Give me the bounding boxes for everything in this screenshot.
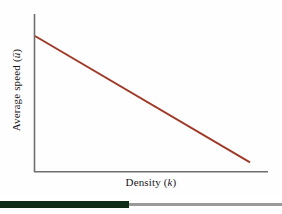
y-axis-label-container: Average speed (ū) [0, 18, 32, 168]
y-axis-label-close: ) [10, 49, 22, 53]
chart-figure: Density (k) Average speed (ū) [0, 0, 282, 196]
y-axis-label: Average speed (ū) [10, 14, 22, 166]
x-axis-label: Density (k) [34, 176, 268, 188]
data-line-speed-density [35, 36, 250, 162]
footer-green-tab [0, 201, 129, 208]
page-footer [0, 196, 282, 214]
x-axis-label-text: Density ( [126, 176, 168, 188]
y-axis-label-symbol: ū [10, 53, 22, 59]
plot-canvas [0, 0, 282, 196]
x-axis-label-close: ) [173, 176, 177, 188]
y-axis-label-text: Average speed ( [10, 58, 22, 131]
